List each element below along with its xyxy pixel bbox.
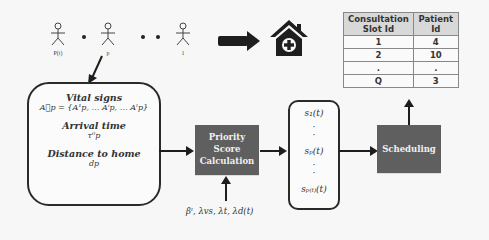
- header-patient-id: PatientId: [413, 13, 458, 36]
- priority-scores-box: s₁(t) · · sₚ(t) · · sₚ₍ₜ₎(t): [288, 100, 340, 210]
- parameters-label: βˡ, λvs, λt, λd(t): [186, 206, 253, 216]
- arrow-right-icon: [339, 145, 379, 157]
- score-sp: sₚ(t): [290, 146, 338, 156]
- header-consultation-slot-id: ConsultationSlot Id: [344, 13, 414, 36]
- ellipsis-dot: [141, 35, 145, 39]
- patient-icon-1: [173, 22, 193, 48]
- patient-attributes-box: Vital signs A⃗p = {A¹p, … Aⁱp, … Aˡp} Ar…: [27, 82, 161, 206]
- arrival-time-title: Arrival time: [29, 120, 159, 131]
- hospital-house-plus-icon: [268, 18, 310, 58]
- score-s1: s₁(t): [290, 108, 338, 118]
- table-row: 14: [344, 36, 459, 49]
- table-row: ..: [344, 62, 459, 75]
- vital-signs-formula: A⃗p = {A¹p, … Aⁱp, … Aˡp}: [29, 103, 159, 112]
- arrival-time-symbol: τ⁰p: [29, 131, 159, 140]
- distance-symbol: dp: [29, 159, 159, 168]
- arrow-right-icon: [218, 30, 262, 52]
- ellipsis-dot: [156, 35, 160, 39]
- table-row: 210: [344, 49, 459, 62]
- priority-score-calculation-box: Priority Score Calculation: [195, 125, 259, 175]
- patient-label-1: 1: [173, 50, 193, 56]
- score-sP: sₚ₍ₜ₎(t): [290, 184, 338, 194]
- patient-icon-P: [48, 22, 68, 48]
- distance-title: Distance to home: [29, 148, 159, 159]
- arrow-right-icon: [260, 145, 288, 157]
- arrow-right-icon: [159, 145, 195, 157]
- vital-signs-title: Vital signs: [29, 92, 159, 103]
- ellipsis-dot: [82, 35, 86, 39]
- patient-label-P: P(t): [48, 50, 68, 56]
- arrow-up-icon: [403, 99, 415, 126]
- arrow-up-icon: [220, 176, 232, 202]
- table-row: Q3: [344, 75, 459, 88]
- schedule-table: ConsultationSlot Id PatientId 14 210 .. …: [343, 12, 459, 88]
- scheduling-box: Scheduling: [377, 125, 441, 173]
- patient-icon-p: [98, 22, 118, 48]
